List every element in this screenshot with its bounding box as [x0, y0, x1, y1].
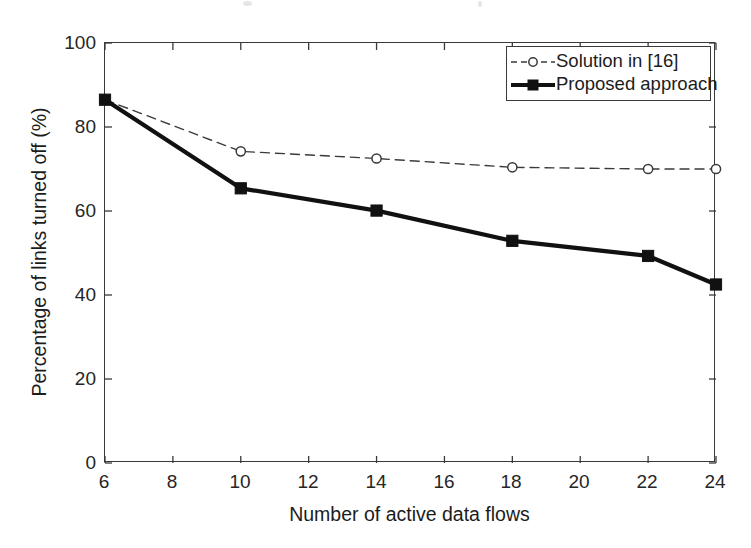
x-tick-label: 24 [704, 472, 725, 491]
legend-label: Solution in [16] [556, 52, 678, 71]
solid-square-marker-icon [510, 75, 556, 95]
data-point-square-marker [710, 279, 721, 290]
data-point-square-marker [643, 250, 654, 261]
x-tick-label: 16 [433, 472, 454, 491]
y-tick-label: 100 [64, 33, 96, 52]
data-point-circle-marker [508, 163, 517, 172]
scan-speckle [478, 1, 482, 7]
legend-entry-proposed-approach[interactable]: Proposed approach [507, 73, 710, 96]
data-point-circle-marker [236, 147, 245, 156]
data-point-circle-marker [711, 164, 720, 173]
data-point-square-marker [235, 183, 246, 194]
legend-entry-solution-in-16[interactable]: Solution in [16] [507, 50, 710, 73]
y-tick-label: 80 [75, 117, 96, 136]
y-tick-label: 0 [85, 453, 96, 472]
scan-speckle [243, 1, 252, 6]
x-tick-label: 14 [365, 472, 386, 491]
data-series-layer [99, 94, 721, 290]
data-point-square-marker [371, 205, 382, 216]
x-tick-label: 6 [99, 472, 110, 491]
x-tick-label: 22 [636, 472, 657, 491]
x-axis-title: Number of active data flows [104, 503, 715, 526]
data-point-circle-marker [644, 164, 653, 173]
y-tick-label: 20 [75, 369, 96, 388]
series-line-2 [105, 100, 716, 285]
chart-plot-svg [105, 43, 716, 463]
data-point-square-marker [99, 94, 110, 105]
dashed-circle-marker-icon [510, 52, 556, 72]
y-axis-title: Percentage of links turned off (%) [26, 42, 52, 462]
data-point-square-marker [507, 235, 518, 246]
x-tick-label: 18 [500, 472, 521, 491]
chart-legend: Solution in [16] Proposed approach [506, 46, 711, 101]
legend-label: Proposed approach [556, 75, 717, 94]
data-point-circle-marker [372, 154, 381, 163]
figure-canvas: 100 80 60 40 20 0 6 8 10 12 14 16 18 20 … [0, 0, 751, 548]
x-tick-label: 12 [297, 472, 318, 491]
x-tick-label: 8 [167, 472, 178, 491]
y-tick-label: 60 [75, 201, 96, 220]
x-tick-label: 10 [229, 472, 250, 491]
y-tick-label: 40 [75, 285, 96, 304]
plot-area [104, 42, 715, 462]
x-tick-label: 20 [568, 472, 589, 491]
